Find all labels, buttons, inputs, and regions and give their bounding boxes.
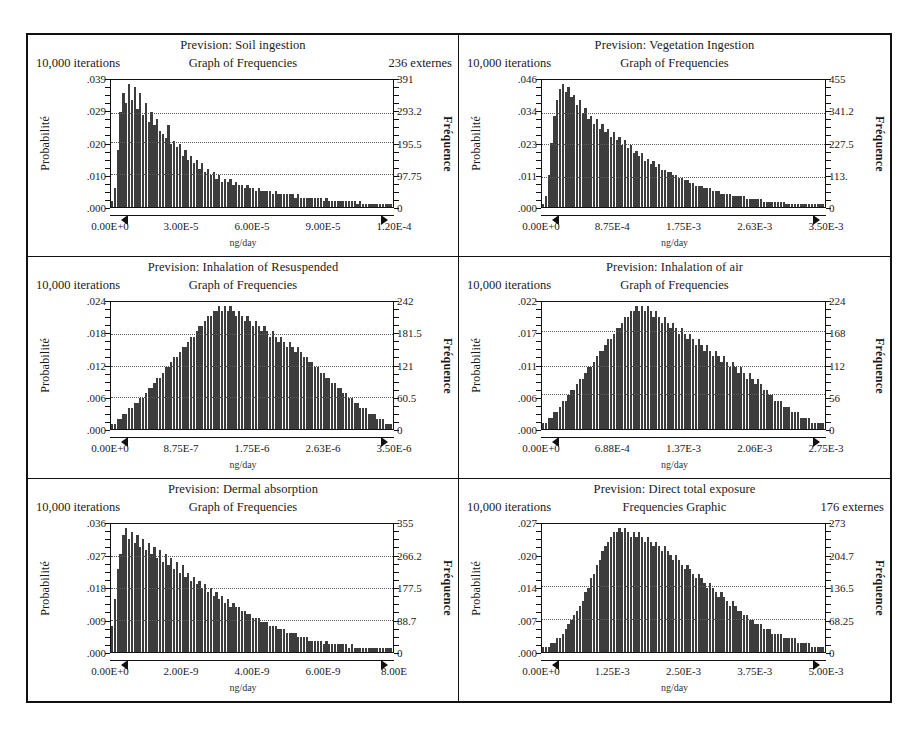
y2-axis-tick <box>394 200 399 201</box>
y-axis-title-text: Probabilité <box>469 561 484 616</box>
y-axis-tick <box>105 127 110 128</box>
chart-panel: Prevision: Direct total exposure10,000 i… <box>459 479 890 701</box>
histogram-bar <box>822 204 824 207</box>
y2-axis-ticklabel: 112 <box>829 360 845 372</box>
y2-axis-ticklabel: 455 <box>829 73 846 85</box>
y2-axis-tick <box>394 95 399 96</box>
y-axis-tick <box>105 333 110 334</box>
y-axis-tick <box>105 637 110 638</box>
y2-axis-ticklabel: 273 <box>829 517 846 529</box>
y-axis-tick <box>536 103 541 104</box>
y2-axis-tick <box>826 366 831 367</box>
y-axis-tick <box>105 390 110 391</box>
y-axis-tick <box>105 95 110 96</box>
plot-box <box>110 79 394 208</box>
y-axis-tick <box>105 629 110 630</box>
y2-axis-tick <box>826 119 831 120</box>
y2-axis-tick <box>394 604 399 605</box>
y-axis-tick <box>105 588 110 589</box>
y2-axis-ticklabels: 391293.2195.597.750 <box>394 79 436 208</box>
y2-axis-tick <box>394 87 399 88</box>
plot-box <box>110 523 394 653</box>
y2-axis-tick <box>394 653 399 654</box>
y2-axis-tick <box>826 144 831 145</box>
y2-axis-tick <box>394 382 399 383</box>
extremes-label: 236 externes <box>388 56 452 71</box>
plot-area <box>110 301 394 430</box>
y2-axis-ticklabel: 97.75 <box>397 170 422 182</box>
gridline <box>542 144 825 145</box>
y2-axis-tick <box>394 152 399 153</box>
y2-axis-tick <box>826 317 831 318</box>
y2-axis-title-text: Fréquence <box>872 560 887 616</box>
gridline <box>111 556 393 557</box>
plot-box <box>541 301 826 430</box>
y-axis-tick <box>536 629 541 630</box>
y-axis-tick <box>105 341 110 342</box>
y2-axis-ticklabel: 177.5 <box>397 582 422 594</box>
y-axis-ticklabel: .024 <box>87 295 106 307</box>
y-axis-title-text: Probabilité <box>38 561 53 616</box>
chart-panel: Prevision: Dermal absorption10,000 itera… <box>28 479 459 701</box>
y-axis-ticklabel: .020 <box>518 550 537 562</box>
y-axis-tick <box>536 152 541 153</box>
y2-axis-tick <box>826 604 831 605</box>
y-axis-tick <box>536 176 541 177</box>
y2-axis-ticklabel: 293.2 <box>397 105 422 117</box>
y-axis-tick <box>105 184 110 185</box>
x-axis-ticklabel: 0.00E+0 <box>522 442 560 454</box>
certainty-axis <box>541 660 826 661</box>
x-axis-ticklabel: 6.00E-9 <box>305 665 340 677</box>
y-axis-ticklabel: .023 <box>518 138 537 150</box>
y2-axis-tick <box>826 653 831 654</box>
x-axis-ticklabel: 3.50E-3 <box>808 220 843 232</box>
y2-axis-ticklabel: 181.5 <box>397 327 422 339</box>
gridline <box>542 113 825 114</box>
y2-axis-tick <box>394 366 399 367</box>
chart-title: Prevision: Inhalation of air <box>459 260 890 275</box>
y2-axis-tick <box>826 168 831 169</box>
plot-area <box>541 79 826 208</box>
y2-axis-tick <box>394 160 399 161</box>
y-axis-ticklabels: .024.018.012.006.000 <box>68 301 108 430</box>
histogram-bar <box>822 423 824 429</box>
y-axis-ticklabel: .027 <box>518 517 537 529</box>
y2-axis-tick <box>394 333 399 334</box>
y-axis-title-text: Probabilité <box>38 338 53 393</box>
chart-title: Prevision: Inhalation of Resuspended <box>28 260 458 275</box>
gridline <box>111 397 393 398</box>
chart-subtitle: Graph of Frequencies <box>459 56 890 71</box>
chart-panel: Prevision: Inhalation of Resuspended10,0… <box>28 257 459 479</box>
x-axis-ticklabel: 8.75E-4 <box>595 220 630 232</box>
x-axis-ticklabel: 0.00E+0 <box>91 220 129 232</box>
y-axis-ticklabels: .046.034.023.011.000 <box>499 79 539 208</box>
y-axis-title: Probabilité <box>467 79 485 208</box>
chart-panel: Prevision: Vegetation Ingestion10,000 it… <box>459 35 890 257</box>
y2-axis-tick <box>394 547 399 548</box>
y2-axis-ticklabel: 204.7 <box>829 550 854 562</box>
y-axis-tick <box>536 406 541 407</box>
y-axis-ticklabel: .007 <box>518 615 537 627</box>
y-axis-tick <box>536 645 541 646</box>
y2-axis-title: Fréquence <box>870 79 888 208</box>
y2-axis-tick <box>826 103 831 104</box>
plot-area <box>110 523 394 653</box>
gridline <box>111 142 393 143</box>
y-axis-tick <box>536 144 541 145</box>
y-axis-tick <box>536 79 541 80</box>
x-axis-ticklabel: 1.20E-4 <box>376 220 411 232</box>
y-axis-tick <box>536 349 541 350</box>
y2-axis-title-text: Fréquence <box>872 116 887 172</box>
y-axis-title-text: Probabilité <box>469 116 484 171</box>
y-axis-title: Probabilité <box>467 523 485 653</box>
y2-axis-tick <box>826 184 831 185</box>
y-axis-tick <box>536 366 541 367</box>
histogram-bars <box>111 80 393 207</box>
y-axis-ticklabel: .027 <box>87 550 106 562</box>
y2-axis-tick <box>394 192 399 193</box>
y-axis-tick <box>105 564 110 565</box>
y-axis-tick <box>105 645 110 646</box>
x-axis-ticklabel: 1.75E-3 <box>666 220 701 232</box>
y2-axis-tick <box>394 144 399 145</box>
x-axis-ticklabel: 0.00E+0 <box>91 442 129 454</box>
